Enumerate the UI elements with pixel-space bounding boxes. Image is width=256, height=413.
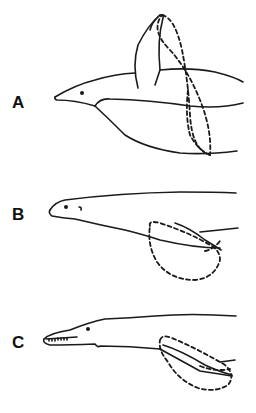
a-stroke-path-dashed — [158, 15, 211, 155]
panel-c-drawing — [44, 315, 236, 390]
a-belly-line — [95, 106, 237, 154]
panel-a-drawing — [55, 15, 243, 155]
b-snout — [49, 210, 220, 248]
diagram-canvas — [0, 0, 256, 413]
c-stroke-path-dashed — [160, 336, 232, 390]
c-eye — [86, 327, 90, 331]
a-eye — [80, 91, 84, 95]
c-back-outline — [44, 315, 236, 340]
a-flank-line — [95, 99, 243, 107]
b-ear — [79, 207, 81, 210]
b-back-outline — [50, 192, 236, 210]
panel-b-drawing — [49, 192, 238, 280]
c-tail-line — [220, 360, 235, 362]
a-back-outline-rear — [160, 69, 243, 82]
c-teeth — [49, 338, 67, 341]
a-wing — [135, 15, 163, 88]
a-beak — [55, 97, 95, 106]
c-stroke-path-inner — [200, 366, 230, 370]
b-eye — [64, 205, 68, 209]
a-back-outline — [55, 73, 135, 97]
b-tail-line — [200, 228, 238, 232]
